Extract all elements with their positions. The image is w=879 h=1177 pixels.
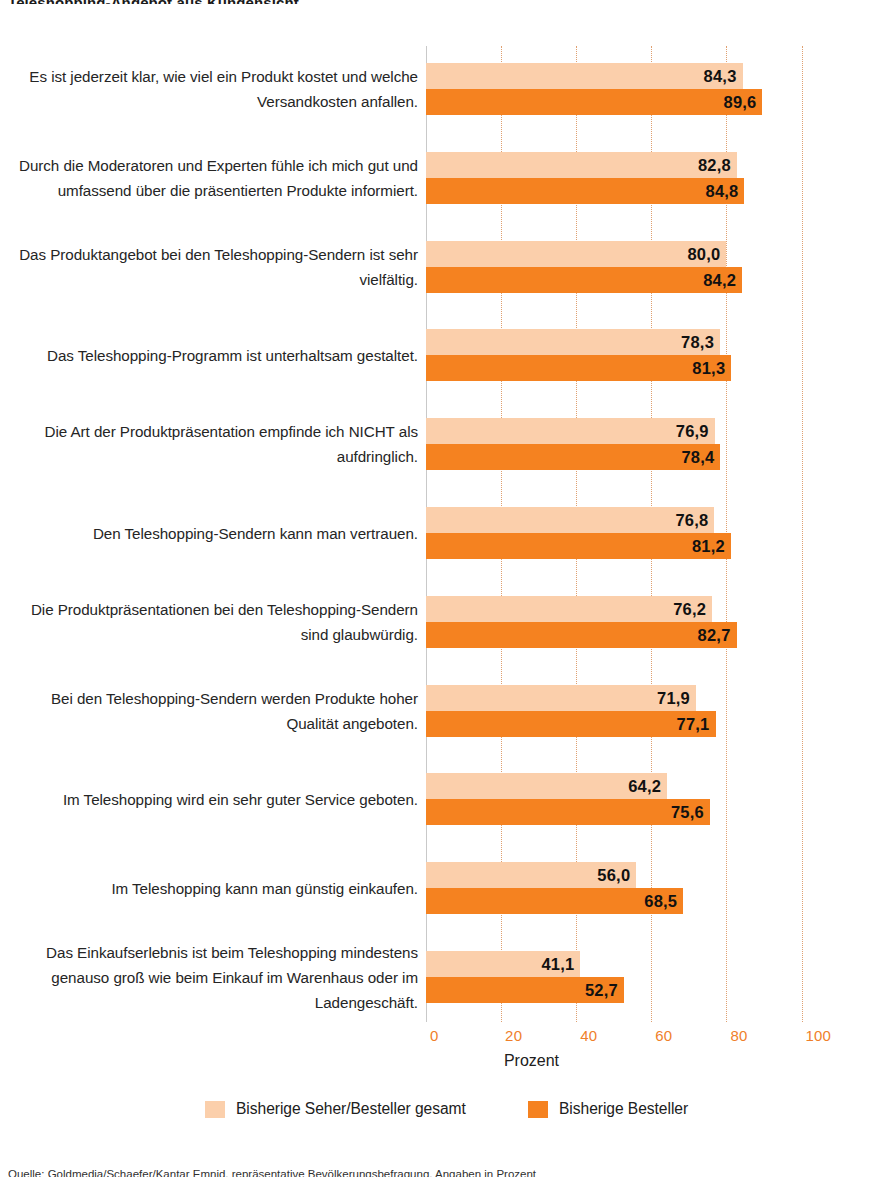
x-tick-40: 40 <box>580 1027 597 1044</box>
cropped-footnote: Quelle: Goldmedia/Schaefer/Kantar Emnid,… <box>8 1168 870 1177</box>
bar-group: 84,389,6 <box>426 63 806 115</box>
legend-item[interactable]: Bisherige Besteller <box>528 1098 688 1120</box>
bar-value-label: 84,8 <box>696 178 738 204</box>
bar-value-label: 84,3 <box>695 63 737 89</box>
plot-area: 84,389,682,884,880,084,278,381,376,978,4… <box>426 46 806 1022</box>
category-label: Die Produktpräsentationen bei den Telesh… <box>10 597 418 647</box>
bar-group: 64,275,6 <box>426 773 806 825</box>
x-tick-60: 60 <box>655 1027 672 1044</box>
bar-value-label: 76,8 <box>666 507 708 533</box>
bar-value-label: 82,7 <box>689 622 731 648</box>
cropped-heading-fragment: Teleshopping-Angebot aus Kundensicht <box>8 0 478 4</box>
bar-value-label: 80,0 <box>678 241 720 267</box>
x-tick-100: 100 <box>806 1027 832 1044</box>
bar-value-label: 41,1 <box>532 951 574 977</box>
legend-item[interactable]: Bisherige Seher/Besteller gesamt <box>205 1098 466 1120</box>
bar-group: 82,884,8 <box>426 152 806 204</box>
legend-label: Bisherige Seher/Besteller gesamt <box>236 1100 466 1118</box>
category-label: Bei den Teleshopping-Sendern werden Prod… <box>10 686 418 736</box>
legend-swatch-icon <box>528 1101 548 1118</box>
bar-value-label: 78,4 <box>672 444 714 470</box>
bar-group: 76,978,4 <box>426 418 806 470</box>
bar-group: 80,084,2 <box>426 241 806 293</box>
bar-value-label: 82,8 <box>689 152 731 178</box>
category-label: Das Produktangebot bei den Teleshopping-… <box>10 242 418 292</box>
bar-group: 76,881,2 <box>426 507 806 559</box>
bar-value-label: 78,3 <box>672 329 714 355</box>
x-axis-title: Prozent <box>0 1052 879 1070</box>
bar-chart-figure: Teleshopping-Angebot aus Kundensicht Es … <box>0 0 879 1177</box>
bar-group: 71,977,1 <box>426 685 806 737</box>
x-axis-title-text: Prozent <box>320 1052 559 1069</box>
category-label: Das Teleshopping-Programm ist unterhalts… <box>10 343 418 368</box>
legend-swatch-icon <box>205 1101 225 1118</box>
bar-group: 56,068,5 <box>426 862 806 914</box>
bar-value-label: 81,2 <box>683 533 725 559</box>
category-label: Das Einkaufserlebnis ist beim Teleshoppi… <box>10 940 418 1015</box>
bar-value-label: 81,3 <box>683 355 725 381</box>
chart-legend: Bisherige Seher/Besteller gesamtBisherig… <box>0 1098 879 1124</box>
bar-value-label: 52,7 <box>576 977 618 1003</box>
bar-group: 78,381,3 <box>426 329 806 381</box>
category-label: Im Teleshopping kann man günstig einkauf… <box>10 876 418 901</box>
bar-value-label: 77,1 <box>668 711 710 737</box>
bar-value-label: 71,9 <box>648 685 690 711</box>
legend-label: Bisherige Besteller <box>559 1100 688 1118</box>
bar-value-label: 76,2 <box>664 596 706 622</box>
bar-value-label: 84,2 <box>694 267 736 293</box>
bar-group: 76,282,7 <box>426 596 806 648</box>
category-label: Die Art der Produktpräsentation empfinde… <box>10 419 418 469</box>
category-label: Den Teleshopping-Sendern kann man vertra… <box>10 521 418 546</box>
x-tick-20: 20 <box>505 1027 522 1044</box>
category-label: Durch die Moderatoren und Experten fühle… <box>10 153 418 203</box>
bar-value-label: 89,6 <box>714 89 756 115</box>
category-label: Es ist jederzeit klar, wie viel ein Prod… <box>10 64 418 114</box>
x-tick-0: 0 <box>430 1027 439 1044</box>
bar-value-label: 56,0 <box>588 862 630 888</box>
x-tick-80: 80 <box>730 1027 747 1044</box>
bar-besteller[interactable] <box>426 89 762 115</box>
bar-value-label: 68,5 <box>635 888 677 914</box>
category-label-column: Es ist jederzeit klar, wie viel ein Prod… <box>0 46 418 1022</box>
bar-group: 41,152,7 <box>426 951 806 1003</box>
bar-value-label: 75,6 <box>662 799 704 825</box>
category-label: Im Teleshopping wird ein sehr guter Serv… <box>10 787 418 812</box>
bar-value-label: 64,2 <box>619 773 661 799</box>
bar-value-label: 76,9 <box>667 418 709 444</box>
